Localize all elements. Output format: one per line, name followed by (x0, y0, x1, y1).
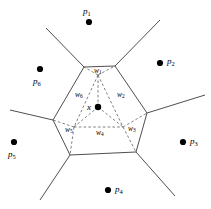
outer-edge-5 (40, 155, 70, 200)
outer-edge-3 (147, 95, 205, 113)
site-point-p4 (105, 187, 111, 193)
weight-label-w2: w2 (117, 91, 125, 100)
site-point-p2 (157, 60, 163, 66)
outer-edge-2 (115, 20, 160, 66)
dashed-edge-10 (98, 75, 123, 127)
weight-label-w3: w3 (128, 125, 136, 134)
weight-label-w4: w4 (96, 129, 104, 138)
outer-edge-4 (136, 152, 175, 196)
sub-cell-dashed-edges (53, 66, 147, 155)
site-point-p3 (180, 139, 186, 145)
dashed-edge-11 (74, 75, 98, 127)
center-point-label: x (87, 103, 91, 112)
central-cell-outline (53, 66, 147, 155)
site-point-p6 (37, 66, 43, 72)
site-label-p6: p6 (33, 77, 41, 87)
dashed-edge-3 (74, 107, 98, 127)
diagram-canvas (0, 0, 211, 209)
query-point-x (95, 104, 101, 110)
weight-label-w5: w5 (65, 126, 73, 135)
site-label-p1: p1 (83, 7, 91, 17)
site-point-p1 (86, 19, 92, 25)
outer-voronoi-edges (10, 20, 205, 200)
center-point (95, 104, 101, 110)
outer-edge-6 (10, 110, 53, 120)
site-label-p5: p5 (8, 150, 16, 160)
site-point-p5 (11, 139, 17, 145)
dashed-edge-2 (98, 107, 123, 127)
site-label-p2: p2 (167, 57, 175, 67)
weight-label-w6: w6 (75, 91, 83, 100)
outer-edge-1 (46, 28, 84, 67)
site-label-p4: p4 (115, 185, 123, 195)
voronoi-figure: p1p2p3p4p5p6 w1w2w3w4w5w6 x (0, 0, 211, 209)
central-voronoi-cell (53, 66, 147, 155)
weight-label-w1: w1 (94, 67, 102, 76)
site-label-p3: p3 (190, 137, 198, 147)
